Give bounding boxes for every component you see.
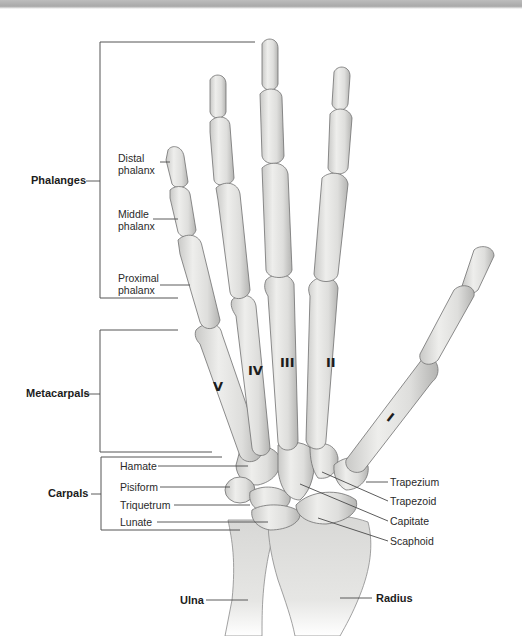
forearm-bones bbox=[225, 514, 371, 636]
ulna-bone bbox=[225, 520, 272, 636]
phalanges-finger-ii bbox=[314, 67, 352, 281]
hand-skeleton-illustration bbox=[0, 0, 522, 636]
numeral-metacarpal-iv: IV bbox=[248, 363, 263, 378]
label-radius: Radius bbox=[376, 592, 413, 604]
label-distal-phalanx: Distal phalanx bbox=[118, 152, 155, 176]
metacarpal-bones bbox=[195, 274, 438, 472]
label-hamate: Hamate bbox=[120, 460, 157, 472]
phalanges-thumb bbox=[420, 247, 494, 365]
numeral-metacarpal-ii: II bbox=[326, 355, 336, 370]
numeral-metacarpal-iii: III bbox=[280, 355, 295, 370]
phalanges-finger-iii bbox=[260, 39, 292, 277]
phalanges-finger-v bbox=[166, 147, 220, 329]
metacarpals-bracket bbox=[100, 330, 212, 452]
group-label-phalanges: Phalanges bbox=[31, 174, 86, 186]
numeral-metacarpal-v: V bbox=[213, 379, 223, 394]
label-trapezoid: Trapezoid bbox=[390, 495, 436, 507]
label-capitate: Capitate bbox=[390, 515, 429, 527]
label-triquetrum: Triquetrum bbox=[120, 499, 170, 511]
label-lunate: Lunate bbox=[120, 516, 152, 528]
phalanges-finger-iv bbox=[210, 75, 250, 299]
label-trapezium: Trapezium bbox=[390, 476, 439, 488]
radius-bone bbox=[268, 514, 371, 636]
label-ulna: Ulna bbox=[180, 594, 204, 606]
label-proximal-phalanx: Proximal phalanx bbox=[118, 272, 159, 296]
label-pisiform: Pisiform bbox=[120, 481, 158, 493]
label-middle-phalanx: Middle phalanx bbox=[118, 208, 155, 232]
group-label-carpals: Carpals bbox=[48, 487, 88, 499]
label-scaphoid: Scaphoid bbox=[390, 535, 434, 547]
group-label-metacarpals: Metacarpals bbox=[26, 387, 90, 399]
